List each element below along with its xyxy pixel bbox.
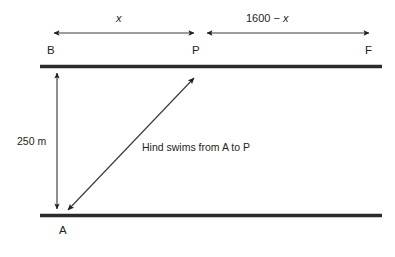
diagram-canvas: B P F A x 1600 − x 250 m Hind swims from… bbox=[0, 0, 395, 257]
point-label-a: A bbox=[59, 225, 67, 237]
swim-path-annotation: Hind swims from A to P bbox=[142, 142, 250, 153]
point-label-p: P bbox=[192, 45, 200, 57]
variable-x: x bbox=[116, 12, 122, 24]
measure-label-pf: 1600 − x bbox=[246, 13, 289, 24]
point-label-b: B bbox=[47, 45, 55, 57]
measure-label-bp: x bbox=[116, 13, 122, 24]
point-label-f: F bbox=[365, 45, 372, 57]
river-width-label: 250 m bbox=[17, 136, 46, 147]
minus-sign: − bbox=[274, 12, 283, 24]
variable-x: x bbox=[283, 12, 289, 24]
diagram-svg bbox=[0, 0, 395, 257]
measure-constant: 1600 bbox=[246, 12, 274, 24]
